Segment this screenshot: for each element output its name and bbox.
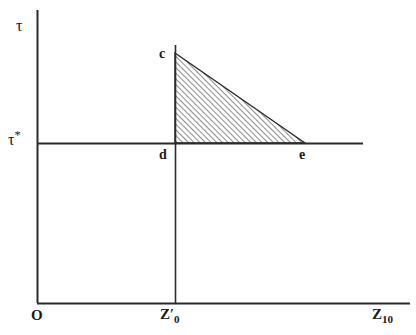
z-prime-zero-base: Z — [160, 306, 170, 322]
tau-axis-label: τ — [16, 18, 22, 34]
z-prime-zero-subscript: 0 — [174, 313, 180, 325]
vertex-label-d: d — [159, 148, 167, 162]
figure-canvas: τ τ* O Z′0 Z10 c d e — [0, 0, 416, 335]
vertex-label-c: c — [159, 47, 165, 61]
z10-subscript: 10 — [382, 313, 393, 325]
tau-star-label: τ* — [8, 129, 21, 148]
vertex-label-e: e — [299, 148, 305, 162]
z10-base: Z — [372, 306, 382, 322]
z-prime-zero-label: Z′0 — [160, 307, 180, 325]
figure-svg — [0, 0, 416, 335]
tau-star-superscript: * — [14, 128, 20, 142]
origin-label: O — [31, 308, 43, 323]
z10-axis-label: Z10 — [372, 307, 393, 325]
